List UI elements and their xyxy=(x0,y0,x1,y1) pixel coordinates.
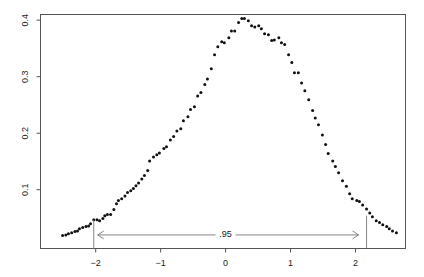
data-point xyxy=(314,116,317,119)
data-point xyxy=(223,41,226,44)
data-point xyxy=(137,181,140,184)
data-point xyxy=(73,230,76,233)
data-point xyxy=(230,29,233,32)
data-point xyxy=(186,115,189,118)
data-point xyxy=(152,155,155,158)
data-point xyxy=(331,159,334,162)
data-point xyxy=(311,109,314,112)
data-point xyxy=(64,233,67,236)
data-point xyxy=(227,36,230,39)
data-point xyxy=(277,36,280,39)
data-point xyxy=(172,135,175,138)
data-point xyxy=(297,71,300,74)
data-point xyxy=(361,203,364,206)
data-point xyxy=(162,147,165,150)
data-point xyxy=(233,29,236,32)
data-point xyxy=(84,225,87,228)
data-point xyxy=(375,219,378,222)
x-tick-label: −2 xyxy=(91,258,101,268)
data-point xyxy=(61,234,64,237)
data-point xyxy=(126,191,129,194)
data-point xyxy=(371,215,374,218)
data-point xyxy=(345,185,348,188)
data-point xyxy=(89,222,92,225)
data-point xyxy=(395,231,398,234)
data-point xyxy=(203,83,206,86)
data-point xyxy=(368,211,371,214)
data-point xyxy=(243,17,246,20)
data-point xyxy=(240,17,243,20)
data-point xyxy=(237,21,240,24)
data-point xyxy=(358,200,361,203)
data-point xyxy=(293,71,296,74)
data-point xyxy=(210,67,213,70)
data-point xyxy=(355,199,358,202)
data-point xyxy=(287,53,290,56)
interval-annotation: .95 xyxy=(94,216,367,249)
data-point xyxy=(388,227,391,230)
data-point xyxy=(182,119,185,122)
data-point xyxy=(327,152,330,155)
data-point xyxy=(385,225,388,228)
data-point xyxy=(247,19,250,22)
data-point xyxy=(81,226,84,229)
data-point xyxy=(280,41,283,44)
y-tick-label: 0.3 xyxy=(21,70,31,83)
data-point xyxy=(341,179,344,182)
data-point xyxy=(179,127,182,130)
data-point xyxy=(146,169,149,172)
data-point xyxy=(158,151,161,154)
data-point xyxy=(253,25,256,28)
data-point xyxy=(103,214,106,217)
data-point xyxy=(337,171,340,174)
data-point xyxy=(307,98,310,101)
data-point xyxy=(348,192,351,195)
data-point xyxy=(189,108,192,111)
data-point xyxy=(260,27,263,30)
data-point xyxy=(273,38,276,41)
data-point xyxy=(257,24,260,27)
data-point xyxy=(220,40,223,43)
data-point xyxy=(169,138,172,141)
x-tick-label: −1 xyxy=(156,258,166,268)
data-point xyxy=(67,232,70,235)
interval-label: .95 xyxy=(219,229,232,239)
y-tick-label: 0.2 xyxy=(21,127,31,140)
data-point xyxy=(250,24,253,27)
data-point xyxy=(193,105,196,108)
data-point xyxy=(115,202,118,205)
data-point xyxy=(129,189,132,192)
data-point xyxy=(270,39,273,42)
x-tick-label: 0 xyxy=(223,258,228,268)
data-point xyxy=(290,61,293,64)
data-point xyxy=(109,213,112,216)
data-point xyxy=(196,94,199,97)
y-tick-label: 0.1 xyxy=(21,183,31,196)
data-point xyxy=(321,133,324,136)
data-point xyxy=(117,199,120,202)
data-point xyxy=(213,53,216,56)
x-tick-label: 2 xyxy=(353,258,358,268)
data-points xyxy=(61,17,398,237)
data-point xyxy=(317,123,320,126)
x-axis: −2−1012 xyxy=(91,249,358,268)
data-point xyxy=(134,184,137,187)
data-point xyxy=(140,177,143,180)
data-point xyxy=(300,81,303,84)
data-point xyxy=(112,208,115,211)
data-point xyxy=(381,223,384,226)
density-scatter-chart: −2−1012 0.10.20.30.4 .95 xyxy=(0,0,424,277)
plot-frame xyxy=(41,15,406,249)
data-point xyxy=(175,129,178,132)
data-point xyxy=(143,174,146,177)
data-point xyxy=(324,143,327,146)
data-point xyxy=(283,43,286,46)
data-point xyxy=(391,229,394,232)
data-point xyxy=(123,194,126,197)
data-point xyxy=(365,207,368,210)
data-point xyxy=(199,91,202,94)
data-point xyxy=(87,224,90,227)
data-point xyxy=(206,77,209,80)
data-point xyxy=(96,218,99,221)
data-point xyxy=(76,229,79,232)
